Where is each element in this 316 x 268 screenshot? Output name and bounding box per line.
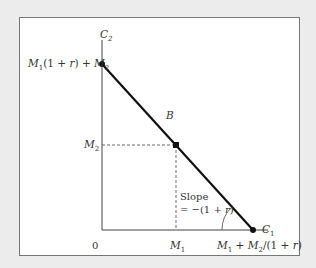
x-intercept-label: M1 + M2/(1 + r) — [217, 240, 302, 254]
m1-tick-label: M1 — [170, 240, 185, 254]
point-x-intercept — [250, 227, 256, 233]
x-axis-label: C1 — [262, 224, 275, 238]
y-axis-label: C2 — [100, 29, 113, 43]
point-b-label: B — [166, 110, 174, 121]
m2-tick-label: M2 — [84, 139, 99, 153]
slope-annotation: Slope = −(1 + r) — [180, 191, 234, 216]
point-b — [173, 142, 179, 148]
origin-label: 0 — [92, 240, 98, 253]
y-intercept-label: M1(1 + r) + M2 — [28, 58, 109, 72]
